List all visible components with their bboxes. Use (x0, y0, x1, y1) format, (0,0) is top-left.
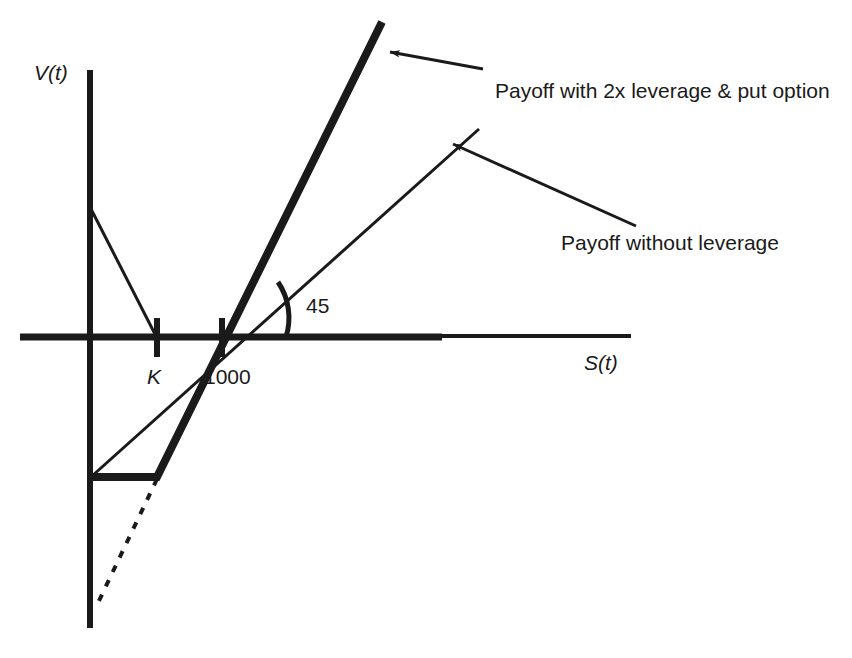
leverage-annotation-arrow (390, 52, 483, 69)
angle-label: 45 (306, 295, 329, 316)
leverage-annotation-text: Payoff with 2x leverage & put option (495, 80, 830, 101)
leveraged-payoff-dashed-extension (97, 479, 157, 605)
strike-tick-label: K (147, 366, 161, 387)
no-leverage-annotation-arrow (453, 144, 636, 226)
spot-tick-label: 1000 (204, 366, 251, 387)
put-option-value-line (90, 207, 158, 340)
payoff-with-leverage-line (90, 22, 382, 477)
payoff-diagram-figure: V(t) S(t) K 1000 45 Payoff with 2x lever… (0, 0, 852, 658)
x-axis-label: S(t) (584, 352, 618, 373)
y-axis-label: V(t) (34, 62, 68, 83)
no-leverage-annotation-text: Payoff without leverage (561, 232, 779, 253)
